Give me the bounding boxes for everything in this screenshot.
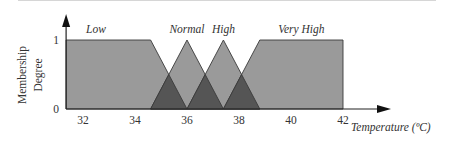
series-labels: LowNormalHighVery High <box>85 23 325 36</box>
x-axis-label: Temperature (ºC) <box>351 121 431 134</box>
series-label-very-high: Very High <box>278 23 325 36</box>
y-axis-label-line1: Membership <box>16 46 29 104</box>
y-tick-labels: 01 <box>53 34 59 115</box>
series-label-normal: Normal <box>168 23 204 35</box>
x-tick-label: 38 <box>233 114 245 126</box>
x-tick-label: 32 <box>77 114 89 126</box>
y-axis-arrow-icon <box>62 14 70 27</box>
y-tick-label: 0 <box>53 103 59 115</box>
x-axis-arrow-icon <box>377 105 391 113</box>
series-label-low: Low <box>85 23 106 35</box>
series-label-high: High <box>211 23 235 36</box>
x-tick-labels: 323436384042 <box>77 114 349 126</box>
x-tick-label: 34 <box>129 114 141 126</box>
x-tick-label: 42 <box>337 114 349 126</box>
overlap-regions <box>151 75 260 110</box>
x-tick-label: 40 <box>285 114 297 126</box>
membership-chart: 323436384042 01 LowNormalHighVery High T… <box>0 0 449 145</box>
y-tick-label: 1 <box>53 34 59 46</box>
x-tick-label: 36 <box>181 114 193 126</box>
y-axis-label-line2: Degree <box>32 58 45 91</box>
